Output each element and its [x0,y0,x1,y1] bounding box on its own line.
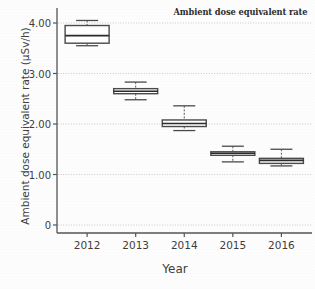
boxplot-canvas [0,0,315,289]
box-plot-2014[interactable] [162,106,206,131]
box-plot-2013[interactable] [114,82,158,100]
box-plot-2016[interactable] [259,149,303,166]
chart-figure: Ambient dose equivalent rate Ambient dos… [0,0,315,289]
box-iqr [65,26,109,44]
box-plot-2012[interactable] [65,20,109,45]
box-plot-2015[interactable] [211,146,255,162]
